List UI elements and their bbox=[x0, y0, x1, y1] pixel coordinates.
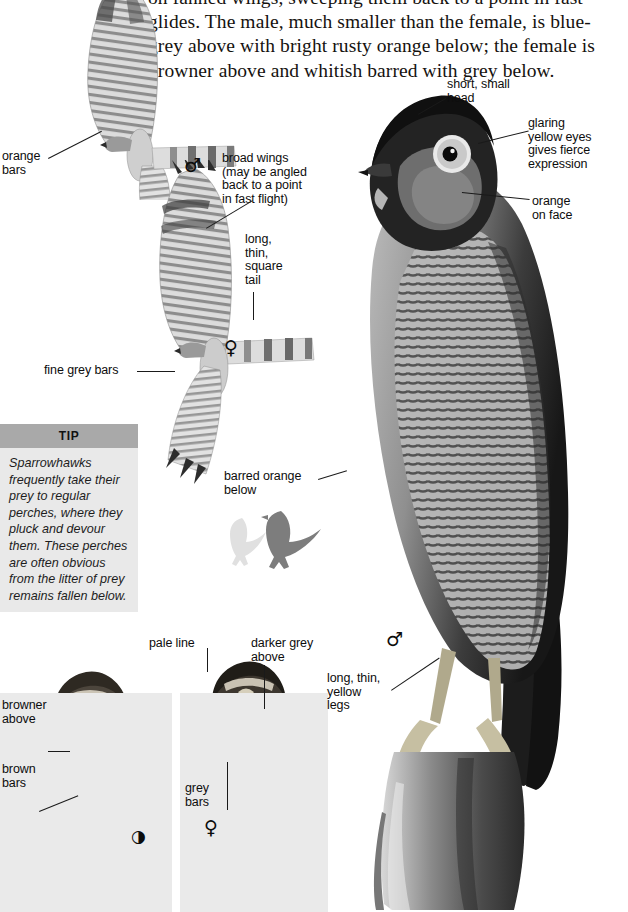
label-long-thin-square-tail: long, thin, square tail bbox=[245, 233, 283, 287]
leader-fine-grey-bars bbox=[137, 371, 175, 372]
label-brown-bars: brown bars bbox=[2, 763, 36, 790]
label-broad-wings: broad wings (may be angled back to a poi… bbox=[222, 152, 307, 206]
leader-grey-bars bbox=[227, 762, 228, 810]
label-orange-on-face: orange on face bbox=[532, 195, 572, 222]
label-orange-bars: orange bars bbox=[2, 150, 40, 177]
symbol-male-perched: ♂ bbox=[386, 630, 403, 649]
label-short-small-head: short, small head bbox=[447, 78, 510, 105]
leader-square-tail bbox=[253, 292, 254, 320]
label-darker-grey-above: darker grey above bbox=[251, 637, 313, 664]
label-glaring-yellow-eyes: glaring yellow eyes gives fierce express… bbox=[528, 117, 592, 171]
leader-pale-line bbox=[207, 648, 208, 672]
label-fine-grey-bars: fine grey bars bbox=[44, 364, 118, 378]
intro-paragraph: on fanned wings, sweeping them back to a… bbox=[148, 0, 618, 83]
label-browner-above: browner above bbox=[2, 699, 46, 726]
label-pale-line: pale line bbox=[149, 637, 195, 651]
symbol-female-perched: ♀ bbox=[204, 818, 218, 837]
leader-browner-above bbox=[48, 751, 70, 752]
label-grey-bars: grey bars bbox=[185, 782, 209, 809]
label-barred-orange-below: barred orange below bbox=[224, 470, 301, 497]
tip-body-text: Sparrowhawks frequently take their prey … bbox=[0, 448, 138, 606]
leader-darker-grey-above bbox=[264, 665, 265, 709]
tip-box: TIP Sparrowhawks frequently take their p… bbox=[0, 424, 138, 612]
tip-header: TIP bbox=[0, 424, 138, 448]
symbol-juvenile: ◑ bbox=[131, 828, 146, 845]
symbol-female-flight: ♀ bbox=[224, 338, 238, 357]
label-long-thin-yellow-legs: long, thin, yellow legs bbox=[327, 672, 380, 713]
symbol-male-upper-flight: ♂ bbox=[184, 156, 201, 175]
